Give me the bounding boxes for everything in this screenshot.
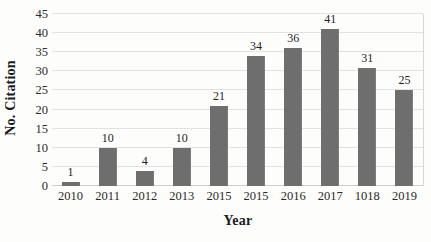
bar: 10 — [99, 148, 117, 186]
bar-series: 110410213436413125 — [52, 14, 423, 186]
y-axis-tick-label: 35 — [36, 45, 49, 60]
bar-value-label: 36 — [287, 31, 299, 46]
bar-group: 4 — [136, 171, 154, 186]
bar: 10 — [173, 148, 191, 186]
bar-group: 36 — [284, 48, 302, 186]
bar: 41 — [321, 29, 339, 186]
bar-value-label: 4 — [142, 154, 148, 169]
bar-group: 1 — [62, 182, 80, 186]
bar-value-label: 1 — [68, 165, 74, 180]
bar-value-label: 25 — [398, 73, 410, 88]
x-axis-title: Year — [52, 213, 424, 229]
x-axis-tick-label: 2012 — [132, 189, 157, 204]
bar-value-label: 10 — [102, 131, 114, 146]
plot-area: 110410213436413125 — [52, 14, 424, 186]
bar-group: 10 — [99, 148, 117, 186]
bar-value-label: 10 — [176, 131, 188, 146]
y-axis-title-text: No. Citation — [3, 60, 19, 136]
x-axis-tick-label: 2019 — [392, 189, 417, 204]
bar: 25 — [395, 90, 413, 186]
x-axis-tick-label: 2011 — [95, 189, 120, 204]
bar-value-label: 34 — [250, 39, 262, 54]
x-axis-tick-label: 2016 — [281, 189, 306, 204]
y-axis-tick-label: 10 — [36, 140, 49, 155]
y-axis-tick-label: 45 — [36, 7, 49, 22]
bar-group: 21 — [210, 106, 228, 186]
y-axis-title: No. Citation — [0, 0, 22, 195]
bar-group: 10 — [173, 148, 191, 186]
y-axis-tick-label: 25 — [36, 83, 49, 98]
y-axis-tick-label: 40 — [36, 26, 49, 41]
x-axis-tick-label: 2013 — [169, 189, 194, 204]
bar-group: 31 — [358, 68, 376, 186]
x-axis-tick-label: 1018 — [355, 189, 380, 204]
bar-value-label: 31 — [361, 51, 373, 66]
bar-value-label: 41 — [324, 12, 336, 27]
x-axis-tick-label: 2015 — [206, 189, 231, 204]
bar: 36 — [284, 48, 302, 186]
x-axis-tick-label: 2017 — [318, 189, 343, 204]
x-axis-tick-label: 2010 — [58, 189, 83, 204]
bar-group: 41 — [321, 29, 339, 186]
y-axis-tick-label: 20 — [36, 102, 49, 117]
y-axis-tick-label: 0 — [42, 179, 48, 194]
y-axis-tick-label: 5 — [42, 159, 48, 174]
y-axis-tick-labels: 051015202530354045 — [22, 0, 52, 195]
y-axis-tick-label: 30 — [36, 64, 49, 79]
x-axis-tick-labels: 2010201120122013201520152016201710182019 — [52, 189, 424, 211]
citation-bar-chart: No. Citation 051015202530354045 11041021… — [0, 0, 431, 242]
bar-group: 34 — [247, 56, 265, 186]
bar: 31 — [358, 68, 376, 186]
y-axis-tick-label: 15 — [36, 121, 49, 136]
bar: 1 — [62, 182, 80, 186]
bar-group: 25 — [395, 90, 413, 186]
x-axis-tick-label: 2015 — [244, 189, 269, 204]
bar: 4 — [136, 171, 154, 186]
bar: 34 — [247, 56, 265, 186]
bar: 21 — [210, 106, 228, 186]
bar-value-label: 21 — [213, 89, 225, 104]
